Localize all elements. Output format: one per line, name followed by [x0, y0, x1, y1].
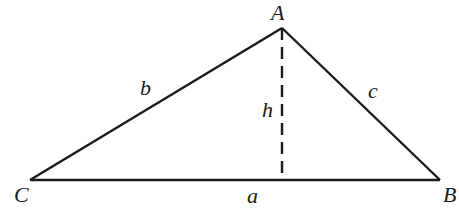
altitude-h-label: h — [262, 97, 273, 122]
vertex-c-label: C — [14, 182, 29, 207]
side-a-label: a — [247, 183, 258, 208]
side-c-label: c — [368, 78, 378, 103]
vertex-a-label: A — [269, 0, 285, 25]
vertex-b-label: B — [443, 182, 456, 207]
side-c-line — [282, 28, 440, 180]
triangle-diagram: A C B b c a h — [0, 0, 459, 220]
side-b-label: b — [140, 75, 151, 100]
side-b-line — [30, 28, 282, 180]
